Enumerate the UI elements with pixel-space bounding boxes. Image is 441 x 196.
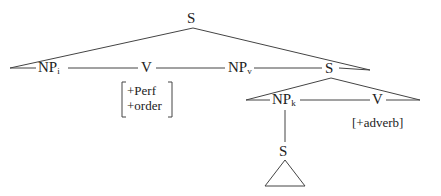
node-v: V [141, 60, 152, 75]
node-np-v: NPv [228, 60, 252, 76]
node-np-i: NPi [38, 60, 60, 76]
node-s-root: S [187, 11, 195, 26]
node-v-lower: V [372, 92, 383, 107]
triangle-icon [265, 160, 305, 186]
node-s-embedded: S [325, 61, 333, 76]
node-np-k: NPk [272, 92, 296, 108]
v-features: +Perf +order [127, 84, 162, 114]
v-lower-features: [+adverb] [352, 116, 403, 131]
node-s-lowest: S [279, 144, 287, 159]
